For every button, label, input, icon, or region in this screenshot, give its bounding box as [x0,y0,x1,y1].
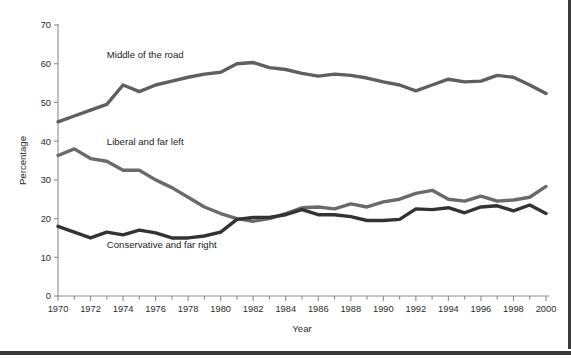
x-axis-ticks: 1970197219741976197819801982198419861988… [48,296,557,314]
figure-border-bottom [0,351,571,355]
y-tick-label: 40 [41,137,51,147]
y-tick-label: 10 [41,253,51,263]
series-label: Conservative and far right [107,239,217,250]
x-tick-label: 1994 [438,304,459,314]
x-tick-label: 1998 [503,304,524,314]
series-labels: Middle of the roadLiberal and far leftCo… [107,49,217,250]
y-axis-ticks: 010203040506070 [41,20,58,301]
x-tick-label: 1982 [243,304,264,314]
y-axis-title: Percentage [17,136,28,185]
line-chart: 010203040506070 197019721974197619781980… [0,0,571,359]
x-tick-label: 1990 [373,304,394,314]
x-tick-label: 1980 [210,304,231,314]
x-tick-label: 1992 [406,304,427,314]
x-tick-label: 1986 [308,304,329,314]
series-label: Middle of the road [107,49,184,60]
x-axis-title: Year [292,323,312,334]
chart-figure: 010203040506070 197019721974197619781980… [0,0,571,359]
data-series [58,63,546,238]
y-tick-label: 0 [46,291,51,301]
x-tick-label: 1972 [80,304,101,314]
y-tick-label: 50 [41,98,51,108]
x-tick-label: 1988 [340,304,361,314]
series-line [58,205,546,238]
x-tick-label: 1984 [275,304,296,314]
y-tick-label: 60 [41,59,51,69]
series-label: Liberal and far left [107,136,184,147]
x-tick-label: 1978 [178,304,199,314]
x-tick-label: 1974 [113,304,134,314]
y-tick-label: 70 [41,20,51,30]
x-tick-label: 1976 [145,304,166,314]
series-line [58,63,546,122]
y-tick-label: 20 [41,214,51,224]
y-tick-label: 30 [41,175,51,185]
x-tick-label: 2000 [536,304,557,314]
axes [58,24,549,296]
x-tick-label: 1996 [471,304,492,314]
x-tick-label: 1970 [48,304,69,314]
